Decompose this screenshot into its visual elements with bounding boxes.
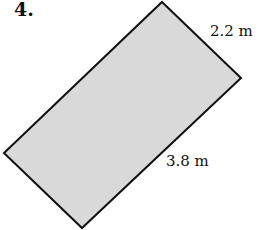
- length-label: 3.8 m: [166, 152, 209, 170]
- rectangle-shape: [4, 2, 241, 228]
- width-label: 2.2 m: [210, 22, 253, 40]
